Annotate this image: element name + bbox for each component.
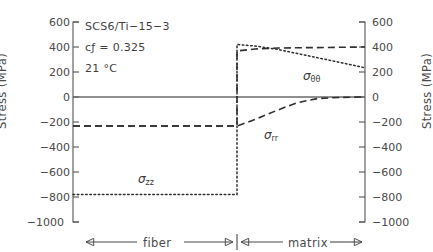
plot-frame — [73, 22, 365, 222]
region-span-indicator — [86, 234, 362, 250]
plot-canvas — [0, 0, 433, 252]
stress-distribution-chart: Stress (MPa) Stress (MPa) 600 400 200 0 … — [0, 0, 433, 252]
curve-sigma-rr — [73, 97, 365, 126]
curve-sigma-zz — [73, 45, 365, 195]
y-ticks-right — [359, 22, 365, 222]
y-ticks-left — [73, 22, 79, 222]
